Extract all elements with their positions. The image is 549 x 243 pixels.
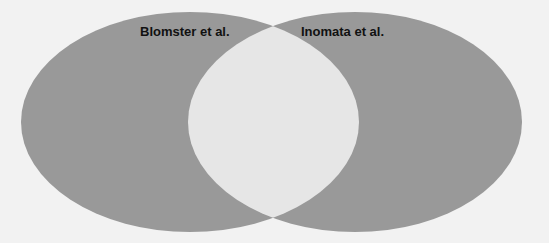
- set-label-blomster: Blomster et al.: [140, 24, 230, 39]
- set-label-inomata: Inomata et al.: [301, 24, 384, 39]
- venn-diagram: [0, 0, 549, 243]
